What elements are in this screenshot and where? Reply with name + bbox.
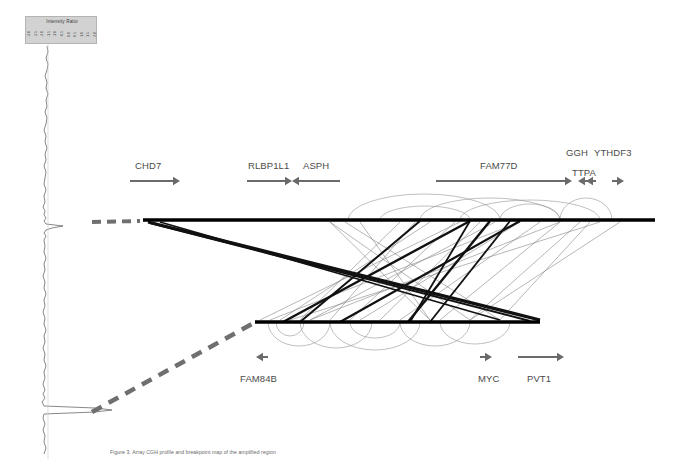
legend-tick: 2.0 [93,32,97,37]
thin-link-11 [440,222,560,320]
gene-label-chd7: CHD7 [135,160,161,171]
legend-tick: -2.0 [40,31,44,37]
legend-title: Intensity Ratio [26,19,98,25]
legend-tick: -1.5 [47,31,51,37]
gene-arrow-head-FAM84B [256,353,263,361]
top-dashed-connector [92,221,140,222]
gene-arrow-head-CHD7 [173,177,180,185]
gene-arrow-head-YTHDF3 [617,177,624,185]
arc-bottom-5 [276,322,304,336]
figure-root: Intensity Ratio -3.0-2.5-2.0-1.5-1.0-0.5… [0,0,673,459]
thin-link-5 [280,222,430,320]
gene-arrow-head-GGH [586,177,593,185]
legend-tick: 0.0 [67,32,71,37]
bottom-dashed-connector [92,324,252,412]
gene-arrow-head-FAM77D [565,177,572,185]
heavy-link-1 [150,223,530,321]
gene-arrow-head-TTPA [578,177,585,185]
cgh-intensity-trace [42,46,112,454]
arc-top-3 [560,198,612,220]
gene-arrow-head-PVT1 [557,353,564,361]
arc-top-4 [500,204,560,220]
arc-bottom-3 [400,322,470,346]
arc-top-5 [380,206,470,220]
arc-bottom-4 [440,322,510,344]
arc-bottom-0 [268,322,330,346]
genomic-bars [143,220,655,322]
gene-label-ggh: GGH [566,147,588,158]
gene-label-ttpa: TTPA [572,167,596,178]
dashed-connectors [92,221,252,412]
legend-tick: 1.0 [80,32,84,37]
gene-label-ythdf3: YTHDF3 [594,147,632,158]
legend-tick: 1.5 [86,32,90,37]
gene-label-asph: ASPH [303,160,329,171]
gene-arrow-head-RLBP1L1 [285,177,292,185]
gene-label-myc: MYC [478,373,499,384]
cgh-series-0 [42,46,112,454]
gene-arrow-head-MYC [485,353,492,361]
gene-arrow-head-ASPH [292,177,299,185]
arc-top-1 [420,198,560,220]
gene-direction-arrows [130,177,624,361]
legend-tick: -3.0 [27,31,31,37]
gene-label-pvt1: PVT1 [527,373,551,384]
figure-caption: Figure 3. Array CGH profile and breakpoi… [110,449,590,455]
legend-tick: -1.0 [53,31,57,37]
legend-tick: 0.5 [73,32,77,37]
thin-link-17 [500,222,590,320]
genomic-diagram-svg [0,0,673,459]
legend-tick: -0.5 [60,31,64,37]
gene-label-fam77d: FAM77D [480,160,518,171]
gene-label-fam84b: FAM84B [240,373,277,384]
intensity-ratio-legend: Intensity Ratio -3.0-2.5-2.0-1.5-1.0-0.5… [25,16,97,44]
arc-bottom-6 [350,322,400,338]
legend-tick: -2.5 [34,31,38,37]
legend-tick-labels: -3.0-2.5-2.0-1.5-1.0-0.50.00.51.01.52.0 [27,31,97,37]
gene-label-rlbp1l1: RLBP1L1 [248,160,289,171]
